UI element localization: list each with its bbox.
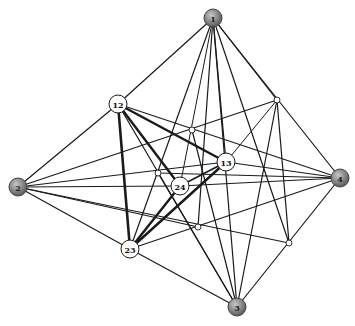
node-d	[195, 224, 201, 230]
node-c	[155, 170, 161, 176]
edge-layer	[18, 18, 340, 307]
edge-1-e	[213, 18, 289, 243]
edge-a-e	[277, 100, 289, 243]
edge-2-23	[18, 187, 130, 249]
node-1: 1	[204, 9, 222, 27]
edge-12-13	[118, 104, 226, 162]
edge-a-13	[226, 100, 277, 162]
node-layer: 123412132423	[9, 9, 349, 316]
node-circle	[286, 240, 292, 246]
node-13: 13	[217, 153, 235, 171]
node-label: 1	[210, 14, 216, 24]
graph-diagram: 123412132423	[0, 0, 355, 326]
edge-3-23	[130, 249, 237, 307]
node-label: 12	[112, 100, 123, 110]
edge-12-23	[118, 104, 130, 249]
edge-4-23	[130, 178, 340, 249]
node-label: 2	[15, 183, 21, 193]
edge-2-12	[18, 104, 118, 187]
node-2: 2	[9, 178, 27, 196]
node-24: 24	[171, 177, 189, 195]
node-b	[189, 127, 195, 133]
edge-24-23	[130, 186, 180, 249]
edge-3-c	[158, 173, 237, 307]
node-a	[274, 97, 280, 103]
edge-3-a	[237, 100, 277, 307]
node-label: 23	[124, 245, 136, 255]
node-4: 4	[331, 169, 349, 187]
node-circle	[155, 170, 161, 176]
edge-1-a	[213, 18, 277, 100]
node-circle	[195, 224, 201, 230]
edge-2-24	[18, 186, 180, 187]
node-circle	[274, 97, 280, 103]
node-label: 13	[220, 158, 232, 168]
node-label: 4	[337, 174, 343, 184]
node-12: 12	[109, 95, 127, 113]
node-label: 3	[234, 303, 240, 313]
node-3: 3	[228, 298, 246, 316]
node-23: 23	[121, 240, 139, 258]
node-e	[286, 240, 292, 246]
node-circle	[189, 127, 195, 133]
node-label: 24	[174, 182, 186, 192]
edge-2-e	[18, 187, 289, 243]
